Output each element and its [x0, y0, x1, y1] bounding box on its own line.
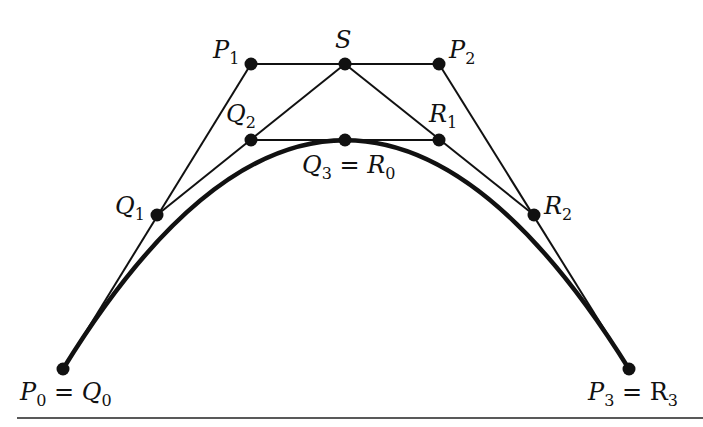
- label-q2: Q2: [226, 100, 256, 132]
- label-q1: Q1: [115, 192, 145, 224]
- point-q2: [245, 134, 258, 147]
- point-s: [339, 58, 352, 71]
- label-r2: R2: [543, 192, 572, 224]
- point-r2: [528, 209, 541, 222]
- bezier-subdivision-diagram: P1 S P2 Q2 R1 Q3 = R0 Q1 R2 P0 = Q0 P3 =…: [0, 0, 703, 427]
- label-r1: R1: [428, 100, 457, 132]
- label-p2: P2: [448, 36, 475, 68]
- point-p1: [245, 58, 258, 71]
- label-s: S: [335, 26, 351, 54]
- point-p2: [433, 58, 446, 71]
- point-p3: [623, 363, 636, 376]
- point-p0: [57, 363, 70, 376]
- point-q1: [151, 209, 164, 222]
- point-q3: [339, 134, 352, 147]
- point-r1: [433, 134, 446, 147]
- label-q3-r0: Q3 = R0: [302, 151, 396, 183]
- label-p1: P1: [212, 36, 239, 68]
- label-p3-r3: P3 = R3: [587, 378, 678, 410]
- label-p0-q0: P0 = Q0: [19, 378, 112, 410]
